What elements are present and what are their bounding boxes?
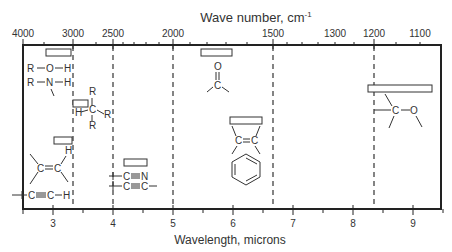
svg-text:O: O	[46, 63, 54, 74]
svg-text:R: R	[89, 120, 96, 131]
svg-text:4000: 4000	[12, 28, 35, 39]
bar-carbonyl	[201, 49, 232, 56]
svg-text:H: H	[63, 190, 70, 201]
structure-oh: R O H	[27, 63, 71, 74]
svg-text:1300: 1300	[324, 28, 347, 39]
bar-ch-sp2	[54, 137, 72, 144]
svg-text:1100: 1100	[409, 28, 431, 39]
structure-alkyne: C C	[109, 181, 157, 192]
svg-text:R: R	[27, 63, 34, 74]
bar-ch-sp3	[73, 100, 88, 107]
svg-text:1500: 1500	[262, 28, 285, 39]
svg-text:H: H	[64, 63, 71, 74]
svg-text:4: 4	[110, 218, 116, 229]
svg-text:C: C	[37, 163, 44, 174]
bar-nitrile-alkyne	[124, 159, 147, 166]
top-axis-labels: 4000 3000 2500 2000 1500 1300 1200 1100	[12, 28, 431, 39]
svg-text:2000: 2000	[162, 28, 185, 39]
svg-text:C: C	[141, 181, 148, 192]
svg-text:C: C	[47, 190, 54, 201]
svg-text:C: C	[89, 104, 96, 115]
svg-text:3000: 3000	[62, 28, 85, 39]
structure-ch-sp2: H C C	[30, 145, 72, 184]
ir-correlation-diagram: Wave number, cm-1 4000 3000 2500 2000	[0, 0, 452, 252]
svg-text:C: C	[214, 80, 221, 91]
svg-text:R: R	[27, 77, 34, 88]
structure-nh: R N H	[27, 77, 71, 96]
svg-text:3: 3	[50, 218, 56, 229]
bar-oh-nh	[46, 49, 71, 56]
svg-text:8: 8	[350, 218, 356, 229]
bar-alkene	[230, 117, 262, 124]
svg-text:6: 6	[230, 218, 236, 229]
structure-carbonyl: O C	[207, 61, 229, 92]
svg-text:R: R	[104, 109, 111, 120]
structure-co: C O	[374, 94, 422, 128]
svg-text:C: C	[235, 135, 242, 146]
structure-benzene	[232, 154, 260, 185]
svg-text:H: H	[75, 107, 82, 118]
structure-ch-sp3: R H C R R	[75, 86, 111, 131]
svg-text:H: H	[64, 77, 71, 88]
svg-text:2500: 2500	[102, 28, 125, 39]
svg-text:C: C	[54, 163, 61, 174]
svg-text:H: H	[65, 145, 72, 156]
top-axis-title: Wave number, cm-1	[200, 10, 312, 25]
svg-text:O: O	[214, 61, 222, 72]
svg-text:R: R	[89, 86, 96, 97]
svg-text:N: N	[46, 77, 53, 88]
bottom-axis-title: Wavelength, microns	[174, 233, 286, 247]
svg-text:5: 5	[170, 218, 176, 229]
bottom-axis-labels: 3 4 5 6 7 8 9	[50, 218, 416, 229]
svg-text:O: O	[410, 105, 418, 116]
svg-text:C: C	[392, 105, 399, 116]
svg-text:C: C	[123, 181, 130, 192]
svg-text:1200: 1200	[363, 28, 386, 39]
svg-text:7: 7	[290, 218, 296, 229]
bar-co	[368, 85, 432, 92]
region-dividers	[73, 46, 374, 208]
svg-text:C: C	[251, 135, 258, 146]
svg-text:C: C	[28, 190, 35, 201]
structure-alkene: C C	[232, 126, 260, 154]
svg-text:9: 9	[410, 218, 416, 229]
structure-ch-sp: C C H	[12, 190, 70, 201]
